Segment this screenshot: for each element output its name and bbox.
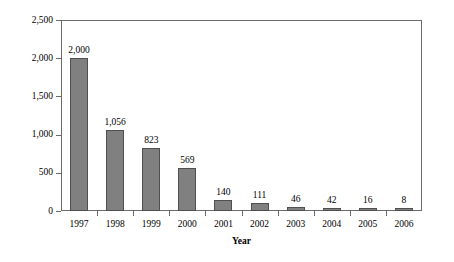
x-axis-title: Year [61,236,422,246]
bar [251,203,269,211]
bar-value-label: 2,000 [54,45,104,55]
x-tick-mark [350,211,351,216]
bar [178,168,196,211]
y-tick-label: 500 [39,167,53,177]
bar-value-label: 8 [379,195,429,205]
chart-figure: Parts Per Million 05001,0001,5002,0002,5… [0,0,454,262]
y-tick-mark [56,211,61,212]
x-tick-mark [386,211,387,216]
bar [323,208,341,211]
bar [287,207,305,211]
bar [70,58,88,211]
bar-value-label: 823 [126,135,176,145]
bar [106,130,124,211]
y-tick-label: 2,500 [32,15,53,25]
x-tick-mark [278,211,279,216]
y-tick-label: 1,500 [32,91,53,101]
x-tick-mark [133,211,134,216]
x-tick-mark [169,211,170,216]
x-tick-mark [205,211,206,216]
x-tick-label: 2006 [379,219,429,229]
bar-value-label: 1,056 [90,117,140,127]
bar [214,200,232,211]
bar [359,208,377,211]
bar-value-label: 569 [162,155,212,165]
x-tick-mark [314,211,315,216]
bar [142,148,160,211]
x-tick-mark [242,211,243,216]
y-tick-label: 2,000 [32,53,53,63]
y-tick-label: 1,000 [32,129,53,139]
x-tick-mark [97,211,98,216]
bar [395,208,413,211]
y-tick-label: 0 [48,206,53,216]
